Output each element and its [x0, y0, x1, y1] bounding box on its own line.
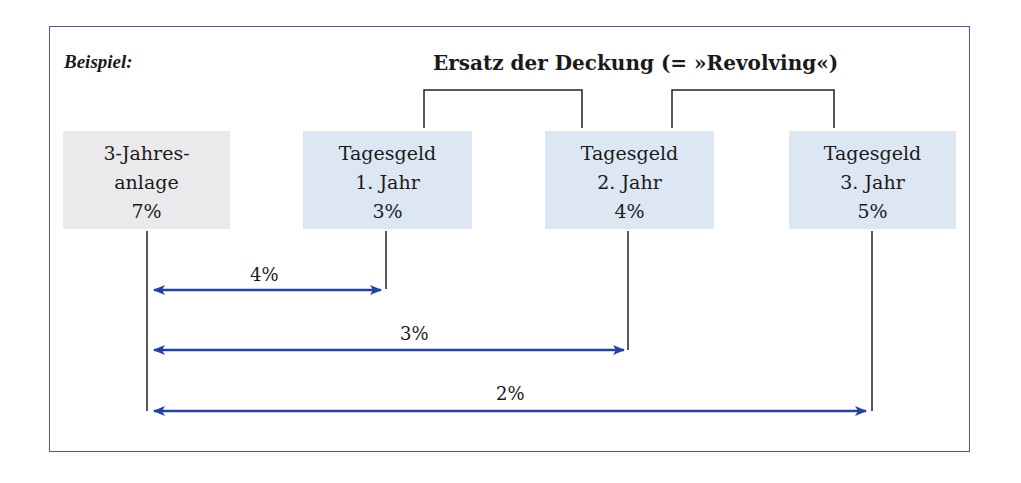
box-rate: 3%	[303, 197, 472, 226]
revolving-bracket-2	[672, 90, 834, 128]
connector-lines	[0, 0, 1021, 483]
box-tagesgeld-3: Tagesgeld 3. Jahr 5%	[789, 131, 956, 229]
spread-label-4: 4%	[250, 264, 279, 285]
box-line2: 1. Jahr	[303, 168, 472, 197]
spread-label-3: 3%	[400, 323, 429, 344]
box-rate: 5%	[789, 197, 956, 226]
box-line1: Tagesgeld	[789, 139, 956, 168]
box-tagesgeld-2: Tagesgeld 2. Jahr 4%	[545, 131, 714, 229]
box-rate: 7%	[63, 197, 230, 226]
box-line1: Tagesgeld	[303, 139, 472, 168]
revolving-bracket-1	[424, 90, 582, 128]
box-rate: 4%	[545, 197, 714, 226]
box-3-jahresanlage: 3-Jahres- anlage 7%	[63, 131, 230, 229]
box-line2: anlage	[63, 168, 230, 197]
box-line2: 3. Jahr	[789, 168, 956, 197]
box-line2: 2. Jahr	[545, 168, 714, 197]
spread-label-2: 2%	[496, 383, 525, 404]
box-line1: 3-Jahres-	[63, 139, 230, 168]
box-line1: Tagesgeld	[545, 139, 714, 168]
box-tagesgeld-1: Tagesgeld 1. Jahr 3%	[303, 131, 472, 229]
